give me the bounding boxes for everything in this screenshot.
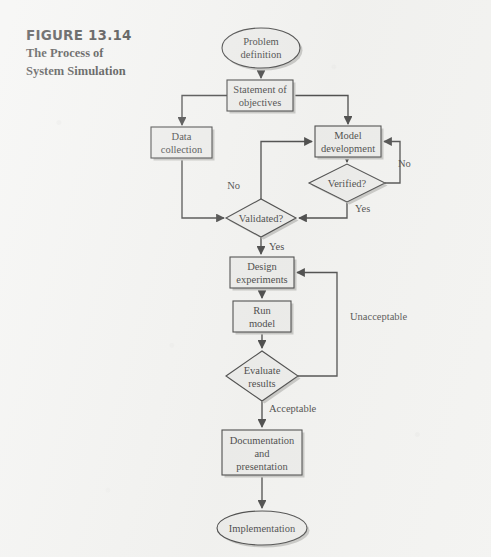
statement-of-objectives-label-1: Statement of: [233, 84, 287, 95]
validated-decision-label: Validated?: [239, 213, 284, 224]
edge-verified-yes-to-validated: [299, 202, 347, 218]
data-collection-label-1: Data: [172, 131, 192, 142]
figure-page: FIGURE 13.14 The Process of System Simul…: [0, 0, 491, 557]
design-experiments-label-1: Design: [247, 261, 277, 272]
run-model-label-2: model: [249, 318, 275, 329]
documentation-presentation-label-1: Documentation: [230, 435, 295, 446]
implementation-label: Implementation: [229, 523, 296, 534]
simulation-process-flowchart: Problem definition Statement of objectiv…: [0, 0, 491, 557]
run-model-label-1: Run: [253, 305, 271, 316]
node-documentation-presentation: Documentation and presentation: [222, 430, 305, 478]
node-implementation: Implementation: [217, 511, 310, 548]
model-development-label-1: Model: [334, 130, 361, 141]
design-experiments-label-2: experiments: [236, 274, 287, 285]
edge-statement-to-model: [293, 96, 348, 125]
node-design-experiments: Design experiments: [230, 257, 297, 291]
edge-label-verified-no: No: [398, 158, 411, 169]
node-statement-of-objectives: Statement of objectives: [227, 80, 296, 114]
verified-decision-label: Verified?: [328, 178, 367, 189]
node-problem-definition: Problem definition: [222, 28, 303, 71]
edge-label-validated-no: No: [227, 180, 240, 191]
edge-label-validated-yes: Yes: [269, 241, 284, 252]
evaluate-results-label-2: results: [248, 378, 275, 389]
node-model-development: Model development: [315, 126, 384, 160]
statement-of-objectives-label-2: objectives: [239, 97, 282, 108]
edge-data-to-validated: [182, 158, 224, 218]
edge-statement-to-data: [182, 96, 227, 126]
node-verified-decision: Verified?: [309, 164, 388, 205]
problem-definition-label-1: Problem: [243, 36, 279, 47]
edge-evaluate-unacceptable-to-design: [297, 273, 337, 377]
edge-validated-no-to-model: [261, 142, 312, 200]
model-development-label-2: development: [321, 143, 375, 154]
evaluate-results-diamond: [226, 351, 298, 401]
problem-definition-label-2: definition: [241, 49, 283, 60]
edge-label-evaluate-acceptable: Acceptable: [269, 403, 317, 414]
data-collection-label-2: collection: [161, 144, 203, 155]
edge-label-evaluate-unacceptable: Unacceptable: [350, 311, 407, 322]
problem-definition-ellipse: [222, 28, 300, 68]
node-validated-decision: Validated?: [226, 199, 299, 240]
node-run-model: Run model: [233, 301, 294, 335]
evaluate-results-label-1: Evaluate: [244, 365, 281, 376]
documentation-presentation-label-3: presentation: [236, 461, 288, 472]
edge-label-verified-yes: Yes: [355, 203, 370, 214]
documentation-presentation-label-2: and: [254, 448, 270, 459]
node-data-collection: Data collection: [151, 127, 215, 161]
node-evaluate-results-decision: Evaluate results: [226, 351, 301, 404]
